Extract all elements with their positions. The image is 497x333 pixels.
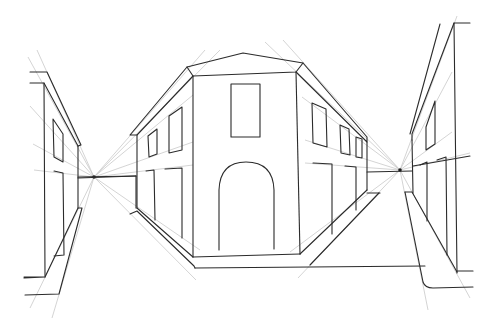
perspective-drawing (0, 0, 497, 333)
right-building (405, 23, 473, 288)
right-building-window (426, 101, 435, 150)
guide-lines (28, 16, 470, 318)
center-roof (187, 53, 303, 76)
left-wing-window-1 (148, 129, 157, 157)
right-wing-window-3 (356, 137, 362, 158)
left-building (24, 72, 136, 295)
left-wing-window-2 (169, 107, 182, 153)
far-street (78, 171, 412, 177)
center-arched-door (219, 162, 274, 250)
center-upper-window (231, 84, 260, 137)
